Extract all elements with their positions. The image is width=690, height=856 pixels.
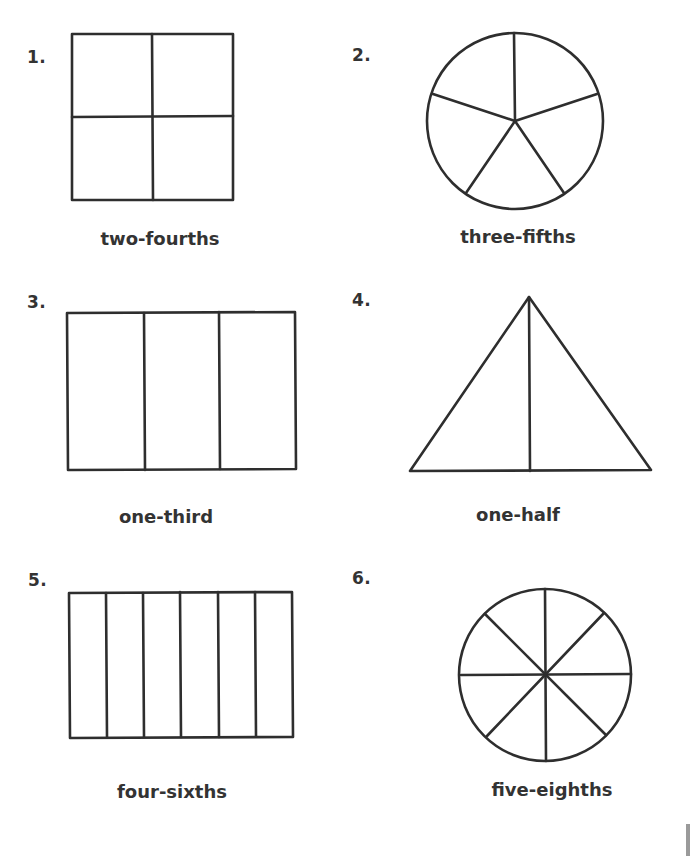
caption-three-fifths: three-fifths: [398, 226, 638, 247]
caption-two-fourths: two-fourths: [40, 228, 280, 249]
triangle-halves-shape: [410, 297, 651, 471]
caption-four-sixths: four-sixths: [52, 781, 292, 802]
caption-one-half: one-half: [398, 504, 638, 525]
rectangle-sixths-shape: [69, 592, 293, 738]
caption-one-third: one-third: [46, 506, 286, 527]
square-fourths-shape: [72, 34, 233, 200]
circle-fifths-shape: [427, 33, 603, 209]
page-edge-mark: [686, 824, 690, 856]
circle-eighths-shape: [459, 589, 631, 761]
rectangle-thirds-shape: [67, 312, 296, 470]
caption-five-eighths: five-eighths: [432, 779, 672, 800]
fraction-shapes: [0, 0, 690, 856]
